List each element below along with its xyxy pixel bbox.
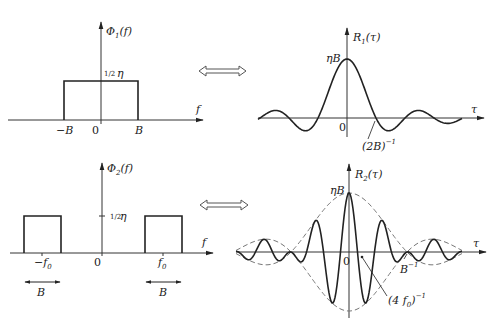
psd-2-rect-left [24,216,61,253]
psd-1-level-frac: 1/2 [104,70,115,78]
psd-2-plot: Φ2(f) 1/2 η f −f0 0 f0 B B [10,162,213,299]
r2-label: R2(τ) [354,168,382,183]
autocorr-1-plot: R1(τ) ηB τ 0 (2B)−1 [258,28,484,153]
tick-b: B [134,124,143,137]
tau-axis-2-label: τ [473,237,480,250]
psd-2-rect-right [145,216,182,253]
peak-label-2: ηB [330,184,345,197]
carrier-zero-dot [361,256,364,259]
double-arrow-icon [199,66,246,76]
tick-zero-1: 0 [92,124,99,137]
psd-2-label: Φ2(f) [107,162,133,177]
r1-label: R1(τ) [352,31,380,46]
tick-zero-2: 0 [94,256,101,269]
psd-2-level-eta: η [120,210,127,223]
origin-label-1: 0 [339,121,346,134]
bandwidth-label-left: B [36,286,45,299]
f-axis-2-label: f [201,236,208,249]
f-axis-1-label: f [195,103,202,116]
origin-label-2: 0 [343,255,350,268]
fourier-pair-diagram: Φ1(f) 1/2 η f −B 0 B R1(τ) ηB τ 0 (2B)−1… [0,0,504,328]
tick-minus-b: −B [56,124,73,137]
zero-pointer-1 [368,121,375,139]
autocorr-2-plot: R2(τ) ηB τ 0 B−1 (4 f0)−1 [236,164,486,318]
zero-annotation-1: (2B)−1 [362,138,396,153]
double-arrow-icon [200,200,248,210]
bandwidth-label-right: B [158,286,167,299]
tick-f0: f0 [157,256,167,271]
psd-1-plot: Φ1(f) 1/2 η f −B 0 B [8,22,203,137]
psd-1-label: Φ1(f) [106,25,132,40]
peak-label-1: ηB [326,52,341,65]
tick-minus-f0: −f0 [34,256,52,271]
sinc-curve [258,59,462,131]
psd-1-level-eta: η [117,67,124,80]
tau-axis-1-label: τ [471,103,478,116]
carrier-annotation: (4 f0)−1 [388,292,426,309]
envelope-annotation: B−1 [399,261,418,276]
carrier-zero-pointer [362,257,387,296]
